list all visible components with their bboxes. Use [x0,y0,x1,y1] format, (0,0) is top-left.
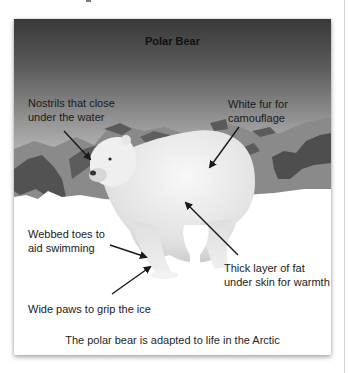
top-edge-mark [86,0,91,2]
label-nostrils: Nostrils that close under the water [28,96,115,124]
page-margin-rule [344,0,345,373]
label-paws: Wide paws to grip the ice [28,302,151,316]
label-fur-line-2: camouflage [228,111,288,125]
label-fur: White fur for camouflage [228,97,288,125]
label-toes-line-1: Webbed toes to [28,227,105,241]
label-nostrils-line-2: under the water [28,110,115,124]
label-nostrils-line-1: Nostrils that close [28,96,115,110]
figure-caption: The polar bear is adapted to life in the… [14,334,331,346]
label-toes: Webbed toes to aid swimming [28,227,105,255]
figure-card: Polar Bear Nostrils that close under the… [14,19,331,355]
polar-bear-illustration: Polar Bear Nostrils that close under the… [14,19,331,319]
label-paws-line-1: Wide paws to grip the ice [28,302,151,316]
figure-title: Polar Bear [14,35,331,47]
label-fat-line-1: Thick layer of fat [224,261,330,275]
label-fat: Thick layer of fat under skin for warmth [224,261,330,289]
label-fur-line-1: White fur for [228,97,288,111]
label-toes-line-2: aid swimming [28,241,105,255]
label-fat-line-2: under skin for warmth [224,275,330,289]
